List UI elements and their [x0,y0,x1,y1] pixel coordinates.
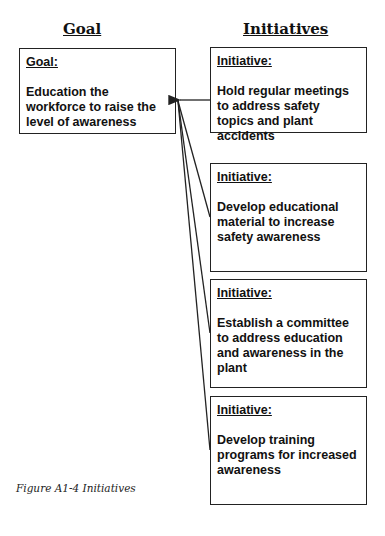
connector-lines [0,0,385,536]
connector-line-3 [178,101,210,333]
connector-line-4 [178,101,210,450]
figure-caption: Figure A1-4 Initiatives [16,482,136,494]
